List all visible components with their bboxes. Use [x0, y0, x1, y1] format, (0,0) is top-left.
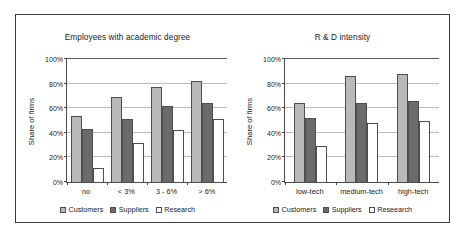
bar [419, 121, 430, 183]
x-axis-tick-label: 3 - 6% [147, 187, 187, 196]
x-axis-tick-mark [285, 182, 286, 185]
y-axis-title: Share of firms [26, 59, 38, 183]
bar [213, 119, 224, 182]
bar [151, 87, 162, 182]
legend-swatch-icon [110, 207, 116, 213]
x-axis-tick-mark [336, 182, 337, 185]
chart-legend: CustomersSuppliersResearch [20, 205, 235, 214]
y-axis-tick-label: 0% [53, 179, 63, 186]
groups-container [67, 59, 227, 182]
x-axis-tick-label: > 6% [187, 187, 227, 196]
y-axis-tick-label: 40% [267, 129, 281, 136]
legend-entry: Research [156, 205, 195, 214]
bar [316, 146, 327, 182]
legend-label: Suppliers [119, 205, 149, 214]
y-axis-title-label: Share of firms [28, 97, 37, 144]
bar [408, 101, 419, 182]
legend-entry: Customers [273, 205, 316, 214]
chart-legend: CustomersSuppliersReseearch [238, 205, 447, 214]
x-axis-tick-label: no [66, 187, 106, 196]
bar [82, 129, 93, 182]
y-axis-tick-label: 60% [267, 105, 281, 112]
legend-label: Customers [69, 205, 104, 214]
legend-entry: Suppliers [110, 205, 148, 214]
x-axis-tick-label: high-tech [387, 187, 439, 196]
y-axis-title: Share of firms [244, 59, 256, 183]
chart-panel-rd-intensity: R & D intensity Share of firms 0%20%40%6… [238, 15, 447, 222]
y-axis-tick-label: 20% [49, 154, 63, 161]
legend-label: Suppliers [332, 205, 362, 214]
x-axis-tick-mark [187, 182, 188, 185]
bar [71, 116, 82, 182]
y-axis-tick-label: 0% [271, 179, 281, 186]
figure-frame: Employees with academic degree Share of … [15, 14, 450, 223]
x-axis-tick-label: low-tech [284, 187, 336, 196]
y-axis-tick-label: 100% [45, 56, 63, 63]
bar [202, 103, 213, 182]
y-axis-tick-label: 40% [49, 129, 63, 136]
y-axis-tick-label: 60% [49, 105, 63, 112]
x-axis-tick-label: medium-tech [336, 187, 388, 196]
bar-groups [285, 59, 439, 182]
bar [133, 143, 144, 182]
chart-panel-employees: Employees with academic degree Share of … [20, 15, 235, 222]
x-axis-labels: no< 3%3 - 6%> 6% [66, 187, 227, 196]
x-axis-tick-label: < 3% [106, 187, 146, 196]
legend-label: Reseearch [377, 205, 412, 214]
legend-label: Research [164, 205, 195, 214]
x-axis-tick-mark [67, 182, 68, 185]
bar-group [67, 59, 107, 182]
y-axis-title-label: Share of firms [246, 97, 255, 144]
bar-group [147, 59, 187, 182]
x-axis-labels: low-techmedium-techhigh-tech [284, 187, 439, 196]
bar [397, 74, 408, 182]
bar [111, 97, 122, 182]
y-axis-tick-label: 80% [49, 80, 63, 87]
legend-label: Customers [282, 205, 317, 214]
y-axis-tick-label: 80% [267, 80, 281, 87]
legend-swatch-icon [323, 207, 329, 213]
bar [162, 106, 173, 182]
x-axis-tick-mark [147, 182, 148, 185]
bar-groups [67, 59, 227, 182]
bar-group [107, 59, 147, 182]
bar-group [285, 59, 336, 182]
legend-entry: Suppliers [323, 205, 361, 214]
legend-swatch-icon [369, 207, 375, 213]
plot-area: 0%20%40%60%80%100% [66, 59, 227, 183]
y-axis-tick-label: 20% [267, 154, 281, 161]
bar [367, 123, 378, 182]
plot-area: 0%20%40%60%80%100% [284, 59, 439, 183]
bar [122, 119, 133, 182]
groups-container [285, 59, 439, 182]
chart-title: R & D intensity [238, 33, 447, 42]
legend-swatch-icon [60, 207, 66, 213]
bar [173, 130, 184, 182]
x-axis-tick-mark [107, 182, 108, 185]
bar-group [388, 59, 439, 182]
chart-title: Employees with academic degree [20, 33, 235, 42]
bar [345, 76, 356, 182]
legend-entry: Customers [60, 205, 103, 214]
legend-entry: Reseearch [369, 205, 412, 214]
bar-group [187, 59, 227, 182]
bar [305, 118, 316, 182]
x-axis-tick-mark [388, 182, 389, 185]
bar [93, 168, 104, 182]
bar [356, 103, 367, 182]
bar-group [336, 59, 387, 182]
legend-swatch-icon [273, 207, 279, 213]
bar [191, 81, 202, 182]
bar [294, 103, 305, 182]
legend-swatch-icon [156, 207, 162, 213]
y-axis-tick-label: 100% [263, 56, 281, 63]
